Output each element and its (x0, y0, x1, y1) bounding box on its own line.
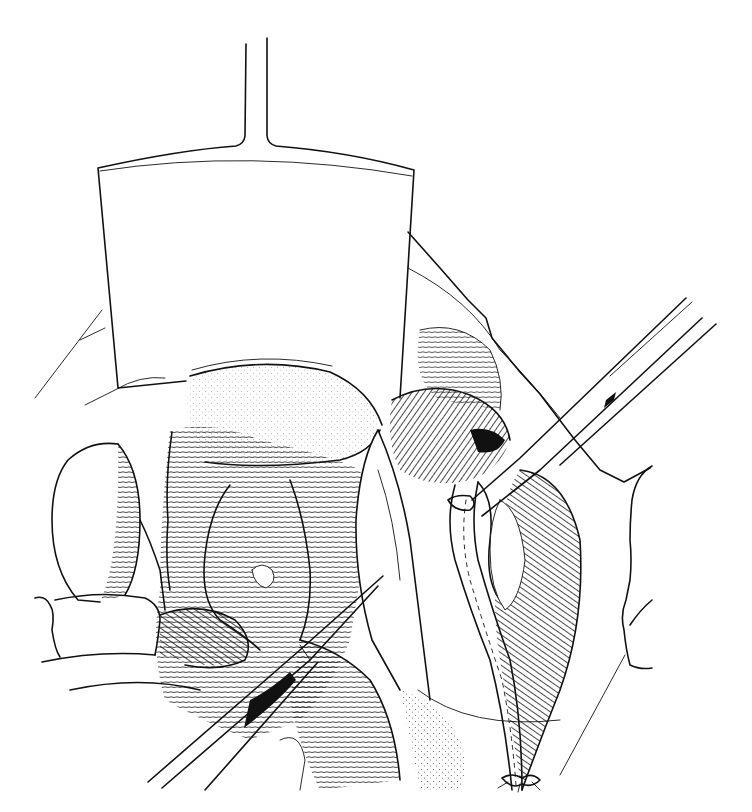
tissue-cluster (390, 328, 510, 484)
surgical-illustration (0, 0, 752, 812)
right-bowel-segment (490, 470, 581, 790)
ligature-knot (498, 775, 540, 792)
illustration-svg (0, 0, 752, 812)
left-wall (35, 310, 165, 405)
left-bowel-loop (52, 443, 165, 610)
forceps-upper-right (472, 298, 716, 516)
retractor (98, 38, 414, 398)
